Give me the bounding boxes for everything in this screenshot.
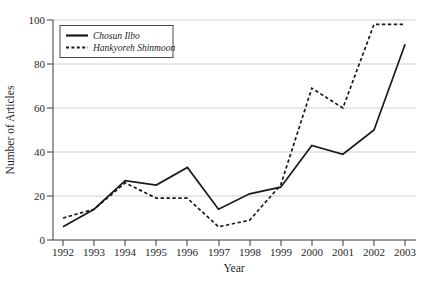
series-line-chosun-ilbo	[63, 44, 405, 227]
x-tick-label: 1994	[114, 246, 137, 258]
x-tick-label: 1995	[145, 246, 168, 258]
x-axis-title: Year	[223, 262, 244, 274]
x-tick-label: 1993	[83, 246, 106, 258]
x-tick-label: 1998	[239, 246, 262, 258]
y-axis-title: Number of Articles	[4, 85, 16, 174]
y-tick-label: 40	[34, 146, 46, 158]
y-tick-label: 100	[29, 14, 46, 26]
article-count-figure: 0 20 40 60 80 100 1992 1993 1994 1995 19…	[0, 0, 431, 289]
x-tick-label: 1997	[208, 246, 231, 258]
y-tick-label: 80	[34, 58, 46, 70]
x-tick-label: 2000	[301, 246, 324, 258]
y-tick-label: 20	[34, 190, 46, 202]
y-tick-marks	[47, 20, 53, 240]
legend: Chosun Ilbo Hankyoreh Shinmoon	[60, 26, 175, 58]
x-tick-label: 1996	[176, 246, 199, 258]
y-tick-label: 60	[34, 102, 46, 114]
y-tick-labels: 0 20 40 60 80 100	[29, 14, 46, 246]
x-tick-label: 2003	[394, 246, 417, 258]
legend-label-chosun-ilbo: Chosun Ilbo	[93, 31, 140, 41]
x-tick-label: 1992	[52, 246, 74, 258]
x-tick-labels: 1992 1993 1994 1995 1996 1997 1998 1999 …	[52, 246, 417, 258]
x-tick-label: 1999	[270, 246, 293, 258]
x-tick-label: 2001	[332, 246, 354, 258]
y-tick-label: 0	[40, 234, 46, 246]
articles-line-chart: 0 20 40 60 80 100 1992 1993 1994 1995 19…	[0, 0, 431, 289]
x-tick-label: 2002	[363, 246, 385, 258]
legend-label-hankyoreh-shinmoon: Hankyoreh Shinmoon	[92, 43, 175, 53]
